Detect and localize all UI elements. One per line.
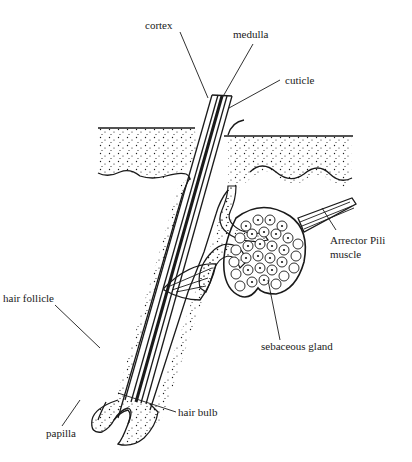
label-cortex: cortex bbox=[145, 19, 173, 31]
label-sebaceous-gland: sebaceous gland bbox=[261, 340, 333, 352]
leader-hair-follicle bbox=[55, 305, 100, 348]
label-arrector-pili: Arrector Pili bbox=[330, 234, 385, 246]
sebaceous-gland bbox=[224, 207, 306, 297]
label-hair-follicle: hair follicle bbox=[3, 292, 54, 304]
leader-papilla bbox=[62, 400, 80, 426]
hair-bulb bbox=[92, 400, 158, 445]
label-medulla: medulla bbox=[233, 28, 269, 40]
label-cuticle: cuticle bbox=[285, 74, 314, 86]
label-hair-bulb: hair bulb bbox=[178, 406, 218, 418]
hair-follicle-diagram: medulla cortex cuticle hair follicle Arr… bbox=[0, 0, 412, 462]
leader-cortex bbox=[180, 32, 208, 98]
leader-medulla bbox=[221, 44, 253, 100]
label-papilla: papilla bbox=[46, 427, 76, 439]
label-arrector-pili-muscle: muscle bbox=[330, 248, 361, 260]
epidermis-layer bbox=[98, 120, 353, 192]
leader-cuticle bbox=[229, 80, 280, 108]
leader-arrector-pili bbox=[322, 208, 336, 230]
